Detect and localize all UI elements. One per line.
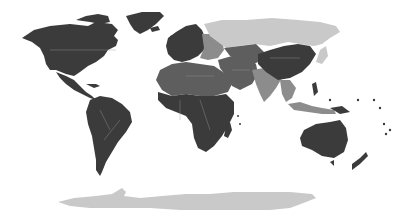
region-caribbean xyxy=(86,84,100,88)
region-antarctica xyxy=(58,188,316,210)
island-dot xyxy=(239,123,241,125)
region-southeast-asia xyxy=(280,80,296,102)
region-russia xyxy=(204,18,340,48)
region-australia xyxy=(300,120,348,158)
island-dot xyxy=(385,133,387,135)
island-dot xyxy=(237,115,239,117)
island-dot xyxy=(383,123,385,125)
island-dot xyxy=(373,99,375,101)
island-dot xyxy=(329,99,331,101)
region-new-zealand xyxy=(352,152,368,170)
island-dot xyxy=(379,107,381,109)
region-north-america xyxy=(22,22,118,76)
world-map xyxy=(0,0,406,222)
region-greenland xyxy=(126,12,164,34)
island-dot xyxy=(357,99,359,101)
region-japan xyxy=(316,46,328,64)
region-sub-saharan-africa xyxy=(158,92,234,152)
region-philippines xyxy=(312,82,318,96)
region-canada-islands xyxy=(76,14,110,24)
region-south-america xyxy=(86,96,132,176)
island-dot xyxy=(389,129,391,131)
region-tasmania xyxy=(330,160,334,166)
region-indonesia xyxy=(288,102,336,114)
